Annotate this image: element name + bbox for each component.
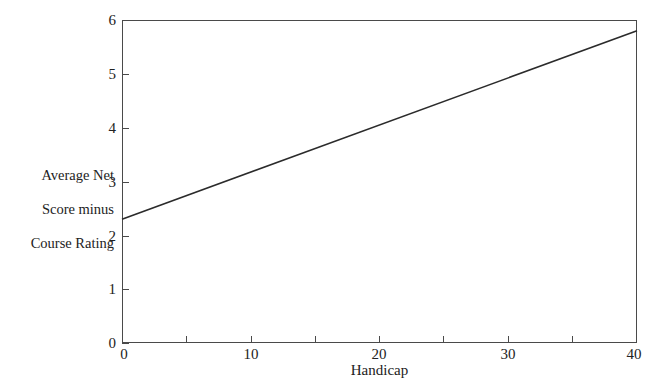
x-tick-minor-35	[572, 336, 573, 343]
x-tick-10	[251, 336, 252, 343]
x-tick-0	[122, 336, 123, 343]
y-tick-4	[122, 128, 129, 129]
x-tick-40	[636, 336, 637, 343]
x-tick-label-10: 10	[244, 347, 259, 362]
line-chart: 6 5 4 3 2 1 0 0 10 20 30 40 Average Net …	[0, 0, 667, 392]
x-tick-minor-5	[186, 336, 187, 343]
y-tick-label-5: 5	[109, 67, 117, 82]
y-axis-title-line-2: Score minus	[0, 201, 114, 218]
x-axis-title: Handicap	[122, 362, 637, 378]
y-tick-0	[122, 343, 129, 344]
y-tick-label-0: 0	[109, 336, 117, 351]
x-tick-20	[379, 336, 380, 343]
x-tick-30	[508, 336, 509, 343]
y-tick-5	[122, 74, 129, 75]
y-tick-label-1: 1	[109, 282, 117, 297]
x-tick-minor-25	[443, 336, 444, 343]
y-axis-title-line-1: Average Net	[0, 167, 114, 184]
series-line-average-net-score	[122, 31, 637, 219]
y-tick-label-6: 6	[109, 13, 117, 28]
y-axis-title-line-3: Course Rating	[0, 235, 114, 252]
x-tick-label-20: 20	[372, 347, 387, 362]
data-series-layer	[122, 20, 637, 343]
y-tick-3	[122, 182, 129, 183]
y-axis-title: Average Net Score minus Course Rating	[0, 150, 114, 269]
x-tick-label-30: 30	[501, 347, 516, 362]
y-tick-label-4: 4	[109, 121, 117, 136]
y-tick-6	[122, 20, 129, 21]
y-tick-2	[122, 236, 129, 237]
y-tick-1	[122, 289, 129, 290]
x-tick-label-0: 0	[120, 347, 128, 362]
x-tick-label-40: 40	[627, 347, 642, 362]
x-tick-minor-15	[315, 336, 316, 343]
